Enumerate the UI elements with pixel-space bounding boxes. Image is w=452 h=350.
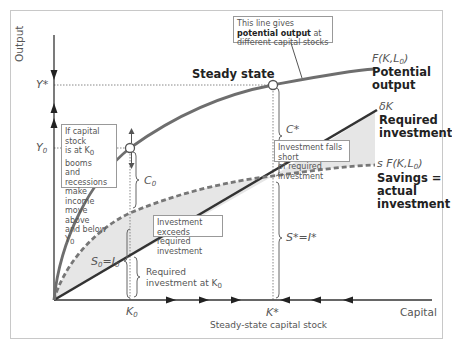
investment-exceeds-callout: Investment exceedsrequired investment [153,215,223,237]
s-star-brace [276,182,282,298]
s-star-label: S*=I* [286,232,316,243]
savings-name: Savings =actualinvestment [377,172,450,211]
arrow-left-icon [280,297,290,304]
k-zero-tick: K0 [126,306,138,321]
x-axis-sublabel: Steady-state capital stock [210,320,327,331]
y-zero-text: Y [36,141,43,154]
arrow-down-icon [129,163,135,169]
steady-state-label: Steady state [192,68,274,81]
y-zero-point [126,144,135,153]
y-star-tick: Y* [36,79,48,90]
x-axis-label: Capital [400,307,437,318]
arrow-right-icon [166,297,176,304]
s-zero-label: S0=I0 [91,256,119,271]
c-star-label: C* [286,124,299,135]
arrow-left-icon [343,297,353,304]
k-zero-sub: 0 [133,311,137,319]
arrow-up-icon [129,128,135,134]
required-at-k0-brace [134,257,140,297]
arrow-down-icon [51,70,58,80]
arrow-up-icon [51,118,58,128]
arrow-left-icon [311,297,321,304]
arrow-up-icon [51,103,58,113]
y-zero-tick: Y0 [36,142,47,157]
arrow-right-icon [199,297,209,304]
c-zero-label: C0 [144,175,156,190]
depreciation-name: Requiredinvestment [379,114,452,140]
production-name: Potentialoutput [372,66,431,92]
c-zero-brace [133,152,139,208]
booms-recessions-callout: If capital stockis at K0 boomsand recess… [61,124,117,188]
y-zero-sub: 0 [43,147,47,155]
depreciation-formula: δK [379,101,393,112]
k-star-tick: K* [266,307,279,318]
y-axis-label: Output [14,26,25,62]
arrow-right-icon [231,297,241,304]
required-at-k0-label: Requiredinvestment at K0 [146,267,222,292]
potential-output-callout: This line gives potential output at diff… [233,16,333,43]
investment-falls-short-callout: Investment falls shortof required invest… [274,140,350,162]
